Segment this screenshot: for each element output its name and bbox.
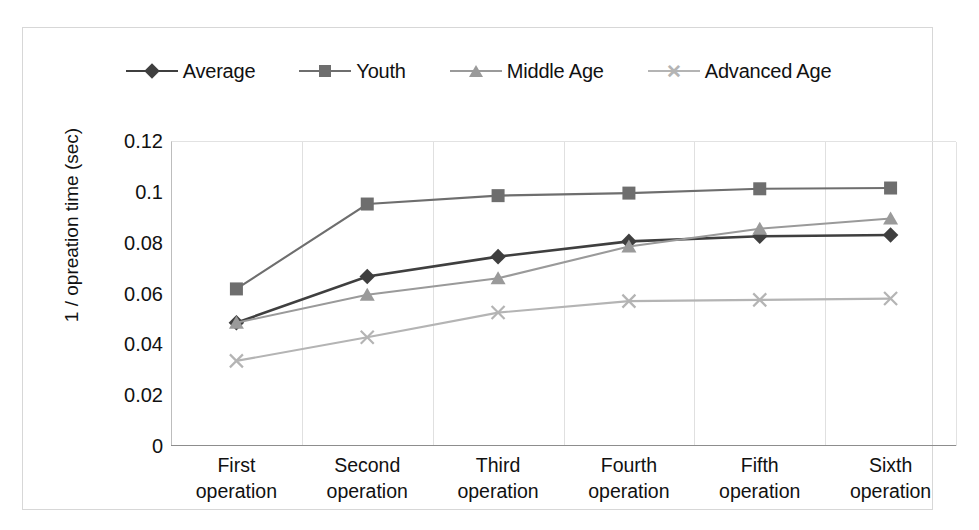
legend-item-middle-age[interactable]: Middle Age [450,60,604,83]
chart-frame: Average Youth Middle Age ✕ [22,27,933,510]
series-line-advanced-age [236,299,890,361]
y-tick-label: 0.1 [135,180,163,203]
x-tick-label: Thirdoperation [433,452,564,512]
y-axis-ticks: 0.120.10.080.060.040.020 [83,141,163,446]
series-layer [171,141,956,446]
series-line-average [236,235,890,323]
data-point-square [622,187,635,200]
y-tick-label: 0.08 [124,231,163,254]
y-tick-label: 0.12 [124,130,163,153]
series-line-youth [236,188,890,289]
legend-item-average[interactable]: Average [126,60,256,83]
plot-area-wrapper [171,141,956,446]
y-tick-label: 0.02 [124,384,163,407]
legend-label-middle-age: Middle Age [507,60,604,83]
x-tick-label: Sixthoperation [825,452,956,512]
x-tick-label: Fourthoperation [563,452,694,512]
data-point-square [361,198,374,211]
x-tick-label: Secondoperation [302,452,433,512]
x-tick-label: Firstoperation [171,452,302,512]
legend-label-average: Average [183,60,256,83]
data-point-square [230,282,243,295]
y-tick-label: 0.06 [124,282,163,305]
legend-swatch-youth [299,63,351,79]
legend-swatch-advanced-age: ✕ [648,63,700,79]
y-axis-title: 1 / opreation time (sec) [61,100,83,350]
data-point-square [492,189,505,202]
x-tick-label: Fifthoperation [694,452,825,512]
data-point-square [884,182,897,195]
legend-swatch-middle-age [450,63,502,79]
data-point-diamond [359,269,375,285]
data-point-square [753,182,766,195]
chart-legend: Average Youth Middle Age ✕ [23,54,934,88]
triangle-marker-icon [469,65,483,77]
grid-line-vertical [956,142,957,446]
legend-item-youth[interactable]: Youth [299,60,405,83]
legend-swatch-average [126,63,178,79]
chart-screenshot: Average Youth Middle Age ✕ [0,0,979,530]
diamond-marker-icon [144,63,160,79]
legend-label-advanced-age: Advanced Age [705,60,832,83]
square-marker-icon [319,65,331,77]
y-tick-label: 0 [152,435,163,458]
data-point-diamond [883,227,899,243]
x-marker-icon: ✕ [666,62,682,81]
x-axis-ticks: FirstoperationSecondoperationThirdoperat… [171,452,956,512]
y-tick-label: 0.04 [124,333,163,356]
data-point-diamond [490,249,506,265]
legend-item-advanced-age[interactable]: ✕ Advanced Age [648,60,832,83]
legend-label-youth: Youth [356,60,405,83]
